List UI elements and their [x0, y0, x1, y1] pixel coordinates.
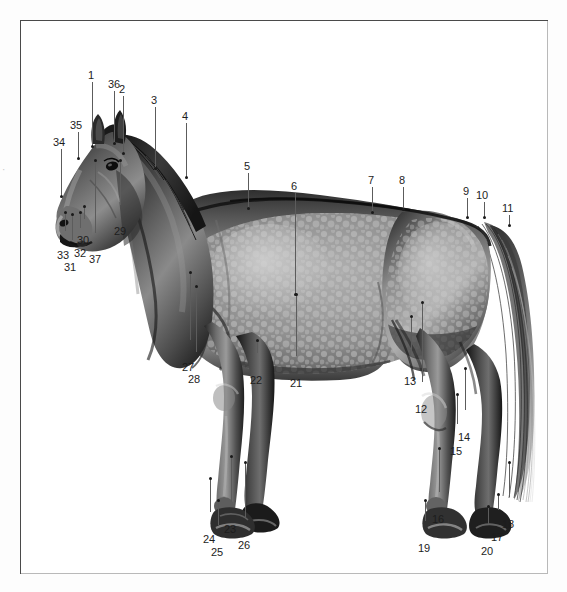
callout-number-13[interactable]: 13 — [404, 376, 416, 387]
leader-line-15 — [457, 394, 458, 424]
leader-line-28 — [196, 286, 197, 352]
callout-number-16[interactable]: 16 — [432, 514, 444, 525]
leader-line-18 — [509, 462, 510, 497]
leader-line-10 — [484, 202, 485, 217]
leader-line-21 — [296, 294, 297, 356]
callout-number-22[interactable]: 22 — [250, 375, 262, 386]
callout-number-8[interactable]: 8 — [399, 175, 405, 186]
callout-number-1[interactable]: 1 — [88, 70, 94, 81]
leader-line-36 — [114, 91, 115, 143]
leader-line-24 — [210, 478, 211, 512]
callout-number-27[interactable]: 27 — [182, 362, 194, 373]
leader-line-5 — [248, 173, 249, 208]
callout-number-2[interactable]: 2 — [119, 84, 125, 95]
callout-number-23[interactable]: 23 — [224, 524, 236, 535]
leader-line-17 — [498, 494, 499, 510]
leader-line-31 — [72, 214, 73, 240]
leader-line-4 — [186, 123, 187, 177]
leader-line-27 — [190, 272, 191, 340]
callout-number-18[interactable]: 18 — [502, 519, 514, 530]
callout-anchor-33 — [64, 211, 67, 214]
callout-anchor-11 — [508, 224, 511, 227]
callout-anchor-20 — [487, 505, 490, 508]
callout-anchor-29 — [119, 159, 122, 162]
callout-anchor-15 — [456, 393, 459, 396]
callout-anchor-14 — [464, 367, 467, 370]
callout-number-26[interactable]: 26 — [238, 540, 250, 551]
callout-anchor-24 — [209, 477, 212, 480]
callout-anchor-36 — [113, 142, 116, 145]
callout-anchor-30 — [83, 205, 86, 208]
callout-number-10[interactable]: 10 — [476, 190, 488, 201]
callout-number-17[interactable]: 17 — [491, 532, 503, 543]
callout-number-5[interactable]: 5 — [244, 161, 250, 172]
callout-number-11[interactable]: 11 — [502, 203, 513, 214]
head — [55, 132, 145, 251]
leader-line-35 — [78, 132, 79, 158]
callout-anchor-22 — [256, 339, 259, 342]
leader-line-34 — [61, 149, 62, 196]
leader-line-1 — [92, 82, 93, 146]
leader-line-13 — [411, 316, 412, 354]
callout-anchor-34 — [60, 195, 63, 198]
callout-number-28[interactable]: 28 — [188, 374, 200, 385]
callout-anchor-3 — [154, 167, 157, 170]
callout-anchor-9 — [466, 216, 469, 219]
callout-anchor-19 — [424, 499, 427, 502]
callout-anchor-31 — [71, 213, 74, 216]
leader-line-19 — [425, 500, 426, 521]
leader-line-3 — [155, 107, 156, 168]
callout-anchor-13 — [410, 315, 413, 318]
callout-number-25[interactable]: 25 — [211, 547, 223, 558]
leader-line-32 — [80, 212, 81, 228]
callout-number-7[interactable]: 7 — [368, 175, 374, 186]
leader-line-2 — [123, 96, 124, 153]
callout-number-31[interactable]: 31 — [64, 262, 76, 273]
plate-stage: · — [0, 0, 567, 592]
leader-line-29 — [120, 160, 121, 205]
leader-line-33 — [65, 212, 66, 231]
callout-anchor-2 — [122, 152, 125, 155]
leader-line-9 — [467, 198, 468, 217]
callout-number-34[interactable]: 34 — [53, 137, 65, 148]
callout-number-24[interactable]: 24 — [203, 534, 215, 545]
callout-number-19[interactable]: 19 — [418, 543, 430, 554]
callout-number-30[interactable]: 30 — [77, 235, 89, 246]
callout-number-37[interactable]: 37 — [89, 254, 101, 265]
horse-drawing — [20, 20, 548, 574]
callout-anchor-18 — [508, 461, 511, 464]
callout-anchor-23 — [230, 455, 233, 458]
callout-anchor-21 — [295, 293, 298, 296]
callout-number-9[interactable]: 9 — [463, 186, 469, 197]
leader-line-25 — [218, 500, 219, 525]
callout-anchor-1 — [91, 145, 94, 148]
callout-number-4[interactable]: 4 — [182, 111, 188, 122]
leader-line-16 — [439, 448, 440, 492]
leader-line-12 — [422, 302, 423, 382]
callout-anchor-10 — [483, 216, 486, 219]
callout-anchor-8 — [402, 208, 405, 211]
callout-anchor-35 — [77, 157, 80, 160]
edge-artifact-mark: · — [2, 164, 11, 176]
callout-anchor-16 — [438, 447, 441, 450]
callout-anchor-27 — [189, 271, 192, 274]
callout-anchor-12 — [421, 301, 424, 304]
callout-anchor-32 — [79, 211, 82, 214]
leader-line-26 — [245, 462, 246, 518]
callout-number-32[interactable]: 32 — [74, 248, 86, 259]
callout-number-29[interactable]: 29 — [114, 226, 126, 237]
leader-line-6 — [295, 193, 296, 294]
callout-number-14[interactable]: 14 — [458, 432, 470, 443]
callout-number-20[interactable]: 20 — [481, 546, 493, 557]
callout-number-15[interactable]: 15 — [450, 446, 462, 457]
callout-anchor-26 — [244, 461, 247, 464]
callout-number-12[interactable]: 12 — [415, 404, 427, 415]
callout-anchor-25 — [217, 499, 220, 502]
callout-number-33[interactable]: 33 — [57, 250, 69, 261]
callout-number-35[interactable]: 35 — [70, 120, 82, 131]
callout-number-21[interactable]: 21 — [290, 378, 302, 389]
callout-anchor-37 — [94, 159, 97, 162]
callout-number-3[interactable]: 3 — [151, 95, 157, 106]
callout-anchor-4 — [185, 176, 188, 179]
callout-number-6[interactable]: 6 — [291, 181, 297, 192]
